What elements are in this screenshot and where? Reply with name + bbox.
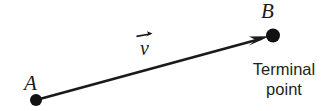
terminal-caption-line-1: Terminal — [247, 59, 321, 79]
terminal-point-dot — [266, 29, 280, 43]
initial-point-dot — [30, 94, 42, 106]
vector-name-letter: v — [140, 38, 149, 58]
initial-point-label: A — [24, 73, 37, 94]
terminal-caption-line-2: point — [247, 79, 321, 99]
vector-diagram: A B v Terminal point — [0, 0, 334, 111]
vector-name-label: v — [136, 31, 153, 58]
terminal-point-caption: Terminal point — [247, 59, 321, 100]
terminal-point-label: B — [261, 1, 274, 22]
